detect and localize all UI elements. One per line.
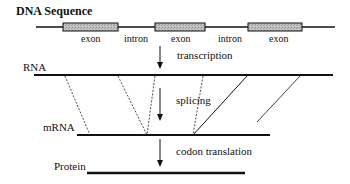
segment-label-exon-1: exon [81, 34, 100, 44]
protein-label: Protein [54, 161, 86, 172]
translation-arrowhead [157, 160, 163, 167]
splice-line-dashed-2 [118, 76, 147, 135]
transcription-label: transcription [177, 50, 233, 61]
segment-label-exon-3: exon [269, 34, 288, 44]
mrna-label: mRNA [43, 122, 75, 133]
exon-box-2 [155, 23, 205, 31]
codon-translation-label: codon translation [176, 146, 252, 157]
splice-line-solid-2 [257, 76, 300, 122]
rna-label: RNA [23, 62, 46, 73]
exon-box-1 [63, 23, 118, 31]
segment-label-exon-2: exon [171, 34, 190, 44]
splice-line-dashed-3 [147, 76, 155, 135]
transcription-arrowhead [157, 62, 163, 69]
segment-label-intron-1: intron [124, 34, 148, 44]
exon-box-3 [248, 23, 302, 31]
dna-sequence-label: DNA Sequence [16, 5, 92, 17]
gene-expression-diagram [0, 0, 350, 184]
splicing-label: splicing [176, 95, 211, 106]
splicing-arrowhead [157, 114, 163, 121]
segment-label-intron-2: intron [218, 34, 242, 44]
